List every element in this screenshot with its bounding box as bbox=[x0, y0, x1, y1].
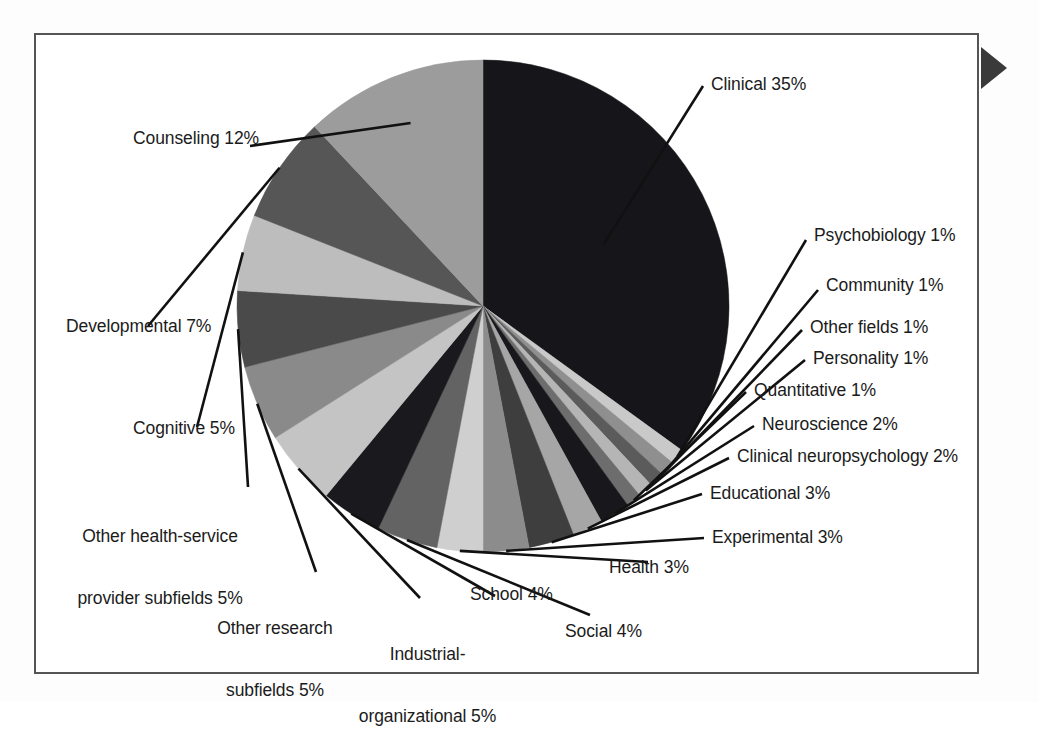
label-health: Health 3% bbox=[609, 557, 689, 578]
label-other-fields: Other fields 1% bbox=[810, 317, 928, 338]
label-community: Community 1% bbox=[826, 275, 943, 296]
label-neuroscience: Neuroscience 2% bbox=[762, 414, 898, 435]
label-psychobiology: Psychobiology 1% bbox=[814, 225, 955, 246]
label-other-hsp-line2: provider subfields 5% bbox=[60, 588, 260, 609]
label-experimental: Experimental 3% bbox=[712, 527, 843, 548]
label-clinical: Clinical 35% bbox=[711, 74, 806, 95]
label-educational: Educational 3% bbox=[710, 483, 830, 504]
label-counseling: Counseling 12% bbox=[133, 128, 259, 149]
label-other-hsp-line1: Other health-service bbox=[60, 526, 260, 547]
label-other-health-service-provider-subfields: Other health-service provider subfields … bbox=[60, 485, 260, 650]
label-other-research-subfields-line2: subfields 5% bbox=[190, 680, 360, 701]
label-personality: Personality 1% bbox=[813, 348, 928, 369]
label-social: Social 4% bbox=[565, 621, 642, 642]
label-quantitative: Quantitative 1% bbox=[754, 380, 876, 401]
label-school: School 4% bbox=[470, 584, 553, 605]
label-cognitive: Cognitive 5% bbox=[133, 418, 235, 439]
label-clinical-neuropsychology: Clinical neuropsychology 2% bbox=[737, 446, 958, 467]
label-developmental: Developmental 7% bbox=[66, 316, 211, 337]
leader-line bbox=[197, 252, 243, 427]
